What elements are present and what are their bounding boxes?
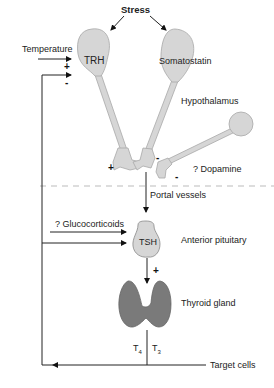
trh-soma	[78, 29, 110, 76]
somatostatin-axon-shape	[145, 80, 178, 152]
dopamine-axon-shape	[162, 128, 235, 166]
thyroid-gland-shape	[119, 281, 171, 327]
t4-label: T4	[133, 344, 142, 355]
t3-label: T3	[152, 344, 161, 355]
hypothalamus-label: Hypothalamus	[181, 97, 239, 106]
anterior-pituitary-label: Anterior pituitary	[181, 236, 247, 245]
trh-axon-shape	[95, 74, 127, 151]
tsh-plus-sign: +	[153, 266, 159, 276]
tsh-label: TSH	[139, 238, 157, 247]
dopamine-label: ? Dopamine	[193, 165, 242, 174]
feedback-arrowhead	[52, 362, 58, 368]
dopamine-minus-sign: -	[175, 172, 178, 182]
somatostatin-label: Somatostatin	[159, 57, 212, 66]
stress-arrows	[111, 16, 166, 30]
thyroid-gland-label: Thyroid gland	[181, 299, 236, 308]
dopamine-soma	[229, 112, 253, 136]
somatostatin-terminal	[133, 148, 155, 170]
diagram-canvas	[0, 0, 274, 388]
glucocorticoids-label: ? Glucocorticoids	[55, 220, 124, 229]
temperature-plus-sign: +	[64, 62, 70, 72]
somatostatin-minus-sign: -	[156, 153, 159, 163]
feedback-minus-sign-trh: -	[65, 78, 68, 88]
target-cells-label: Target cells	[210, 361, 256, 370]
temperature-label: Temperature	[22, 45, 73, 54]
stress-label: Stress	[121, 5, 150, 15]
trh-axon	[95, 73, 131, 295]
portal-vessels-label: Portal vessels	[150, 191, 206, 200]
trh-label: TRH	[84, 56, 105, 66]
trh-terminal-plus-sign: +	[108, 163, 114, 173]
